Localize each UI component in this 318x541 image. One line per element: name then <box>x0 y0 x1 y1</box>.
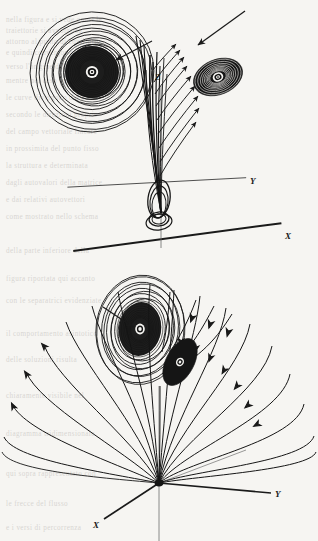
lower-x-axis-label: X <box>92 520 100 530</box>
lower-fan-curve-right <box>159 436 314 483</box>
lower-feeder-arrow <box>188 314 196 323</box>
figure-page: nella figura e si vede come letraiettori… <box>0 0 318 541</box>
lower-feeder-arrow <box>206 320 214 329</box>
phase-portrait-figure: X Y Z <box>0 0 318 541</box>
lower-fan-flow-arrow <box>232 382 241 391</box>
lower-axes: X Y <box>92 386 282 541</box>
upper-trajectory-bundle <box>136 36 199 213</box>
lower-phase-portrait: X Y <box>2 269 316 541</box>
lower-large-focus-ring-inner <box>138 327 141 331</box>
upper-x-axis-label: X <box>284 231 292 241</box>
lower-fan-curve-left <box>12 404 159 483</box>
lower-x-axis <box>104 483 159 519</box>
lower-left-fan-arrow <box>22 370 30 378</box>
lower-y-axis-label: Y <box>275 489 282 499</box>
upper-small-spiral-focus <box>188 51 248 103</box>
lower-fan-flow-arrow <box>243 401 252 410</box>
lower-fan-flow-arrow <box>252 421 261 429</box>
upper-feather-trajectory <box>160 108 199 162</box>
upper-x-axis <box>73 223 281 251</box>
upper-origin-loops <box>145 179 173 232</box>
upper-incoming-arrow <box>198 11 245 45</box>
lower-y-axis <box>159 483 271 493</box>
lower-fan-curve-left <box>44 345 159 483</box>
upper-y-axis-label: Y <box>250 176 257 186</box>
upper-large-focus-point <box>91 71 93 73</box>
upper-spiral-entry-arrow <box>116 41 152 60</box>
lower-fan-curve-right <box>159 452 316 483</box>
lower-fan-curve-left <box>4 437 159 483</box>
upper-feather-trajectory <box>160 122 196 176</box>
upper-axes: X Y Z <box>67 72 292 251</box>
lower-feeder-arrow <box>224 328 232 337</box>
lower-fan-curve-right <box>159 404 304 483</box>
lower-fan-flow-arrow <box>220 366 228 375</box>
lower-left-fan-arrow <box>40 342 48 350</box>
lower-fan-curve-left <box>26 372 159 483</box>
upper-phase-portrait: X Y Z <box>19 0 292 251</box>
